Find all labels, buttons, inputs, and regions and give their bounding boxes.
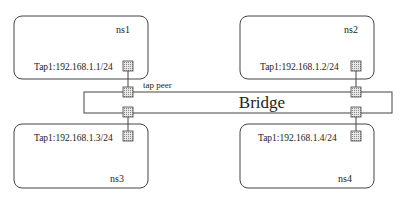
tap-port [351,131,361,141]
peer-port [351,87,361,97]
tap-port [123,131,133,141]
namespace-name: ns3 [110,173,124,184]
tap-label: Tap1:192.168.1.4/24 [258,133,337,143]
network-diagram: Bridge ns1 Tap1:192.168.1.1/24 ns2 Tap1:… [0,0,402,198]
peer-port [123,107,133,117]
peer-port [351,107,361,117]
tap-label: Tap1:192.168.1.3/24 [34,133,113,143]
tap-peer-label: tap peer [143,80,172,90]
namespace-name: ns1 [116,24,130,35]
tap-label: Tap1:192.168.1.1/24 [34,62,113,72]
tap-port [351,61,361,71]
tap-port [123,61,133,71]
tap-label: Tap1:192.168.1.2/24 [260,62,339,72]
namespace-name: ns4 [338,173,352,184]
peer-port [123,87,133,97]
namespace-name: ns2 [344,24,358,35]
bridge-label: Bridge [239,93,285,112]
